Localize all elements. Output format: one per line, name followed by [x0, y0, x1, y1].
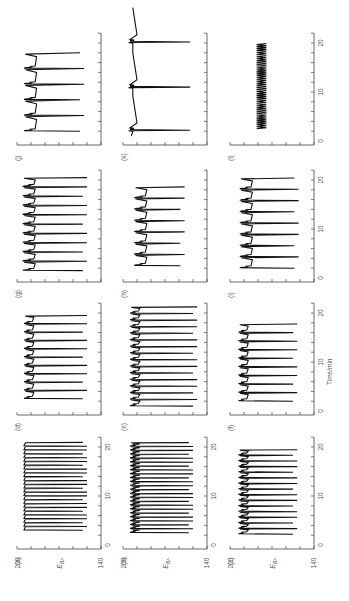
panel-a: (a)200140EBr-01020	[14, 437, 111, 568]
panel-e: (e)	[120, 303, 207, 431]
y-axis-label: EBr-	[269, 557, 278, 569]
panel-label: (g)	[14, 290, 22, 298]
panel-label: (h)	[120, 290, 128, 298]
panel-f: (f)01020Time/min	[227, 303, 333, 431]
x-tick-label: 10	[104, 492, 111, 500]
oscillation-trace	[23, 178, 87, 271]
oscillation-trace	[24, 442, 87, 530]
panel-label: (l)	[227, 155, 235, 161]
panel-label: (k)	[120, 153, 128, 161]
oscillation-trace	[134, 187, 184, 266]
x-tick-label: 0	[317, 543, 324, 547]
x-tick-label: 0	[317, 139, 324, 143]
x-tick-label: 20	[317, 176, 324, 184]
x-tick-label: 10	[317, 358, 324, 366]
x-tick-label: 20	[317, 443, 324, 451]
panel-h: (h)	[120, 170, 207, 298]
panel-label: (i)	[227, 292, 235, 298]
oscillation-trace	[238, 324, 297, 401]
panel-d: (d)	[14, 303, 101, 431]
x-tick-label: 10	[210, 492, 217, 500]
x-tick-label: 0	[104, 543, 111, 547]
panel-l: (l)01020	[227, 33, 324, 161]
panel-j: (j)	[14, 33, 101, 161]
x-tick-label: 20	[210, 443, 217, 451]
panel-g: (g)	[14, 170, 101, 298]
x-tick-label: 0	[317, 409, 324, 413]
oscillation-trace	[257, 44, 267, 129]
oscillation-trace	[130, 443, 193, 533]
x-tick-label: 0	[210, 543, 217, 547]
oscillation-figure: (a)200140EBr-01020(b)200140EBr-01020(c)2…	[0, 0, 349, 601]
panel-c: (c)200140EBr-01020	[227, 437, 324, 568]
panel-label: (d)	[14, 423, 22, 431]
panel-k: (k)	[120, 8, 207, 161]
chart-canvas: (a)200140EBr-01020(b)200140EBr-01020(c)2…	[0, 0, 349, 601]
y-tick-label: 140	[97, 557, 104, 568]
x-axis-label: Time/min	[326, 358, 333, 385]
y-tick-label: 200	[14, 557, 21, 568]
panel-label: (j)	[14, 155, 22, 161]
x-tick-label: 10	[317, 88, 324, 96]
x-tick-label: 10	[317, 225, 324, 233]
panel-b: (b)200140EBr-01020	[120, 437, 217, 568]
panel-label: (e)	[120, 423, 128, 431]
oscillation-trace	[24, 53, 84, 131]
y-tick-label: 200	[120, 557, 127, 568]
oscillation-trace	[238, 450, 297, 535]
x-tick-label: 20	[317, 39, 324, 47]
y-axis-label: EBr-	[162, 557, 171, 569]
panel-label: (f)	[227, 425, 235, 431]
y-tick-label: 140	[203, 557, 210, 568]
oscillation-trace	[130, 307, 197, 406]
oscillation-trace	[24, 316, 87, 399]
x-tick-label: 20	[104, 443, 111, 451]
x-tick-label: 20	[317, 309, 324, 317]
y-axis-label: EBr-	[56, 557, 65, 569]
y-tick-label: 200	[227, 557, 234, 568]
panel-i: (i)01020	[227, 170, 324, 298]
oscillation-trace	[240, 178, 299, 268]
x-tick-label: 10	[317, 492, 324, 500]
x-tick-label: 0	[317, 276, 324, 280]
oscillation-trace	[129, 8, 191, 136]
y-tick-label: 140	[310, 557, 317, 568]
